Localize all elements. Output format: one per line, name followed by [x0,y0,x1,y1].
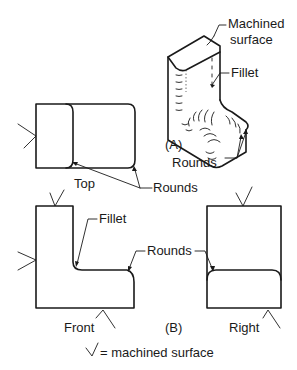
label-rounds-top: Rounds [153,180,198,195]
label-machined-surface-2: surface [230,32,273,47]
label-fillet-a: Fillet [231,65,259,80]
caption-b: (B) [165,320,182,335]
view-label-top: Top [74,176,95,191]
view-label-front: Front [64,320,95,335]
label-machined-surface-1: Machined [228,16,284,31]
legend-text: = machined surface [100,345,214,360]
caption-a: (A) [165,137,182,152]
label-fillet-b: Fillet [99,211,127,226]
castings-drawing: Machined surface Fillet (A) Rounds Top R… [0,0,297,370]
legend [86,343,98,356]
view-label-right: Right [229,320,260,335]
right-view [195,187,281,328]
check-mark-symbol [86,343,98,356]
label-rounds-a: Rounds [172,155,217,170]
label-rounds-front: Rounds [147,243,192,258]
